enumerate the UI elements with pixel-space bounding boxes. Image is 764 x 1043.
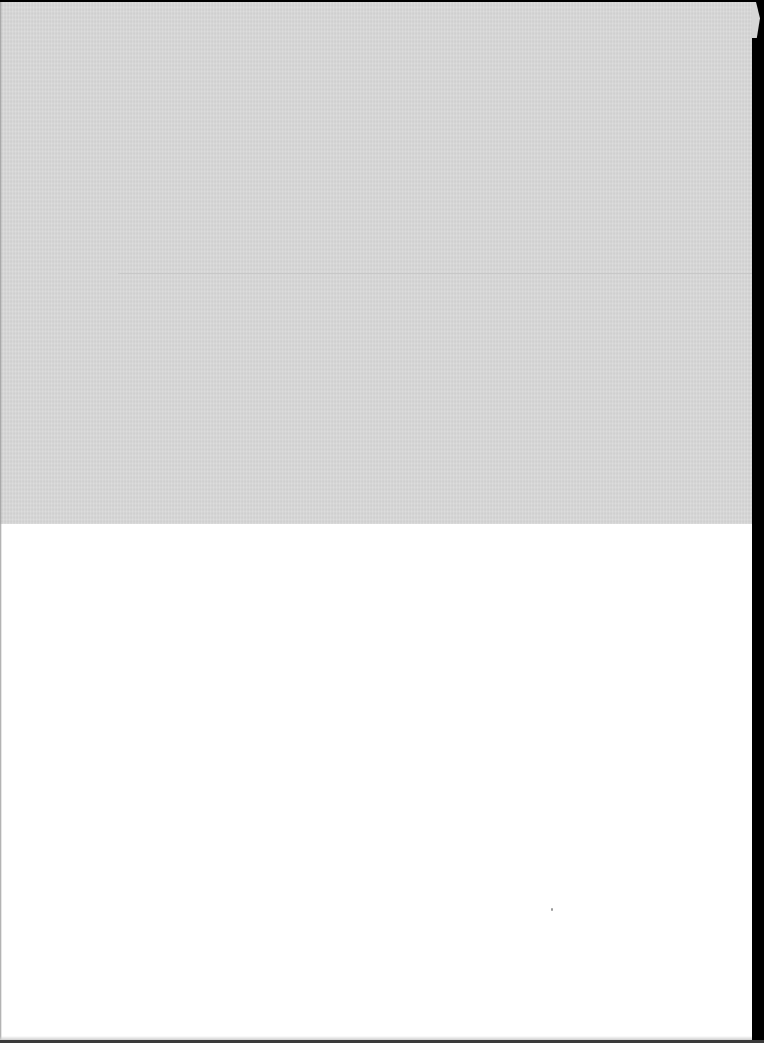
torn-corner-notch <box>752 2 760 38</box>
scan-speck <box>551 908 553 911</box>
paper-page <box>0 2 752 1040</box>
faint-horizontal-rule <box>118 273 752 274</box>
page-left-edge <box>0 2 2 1040</box>
scanned-document <box>0 0 764 1043</box>
shaded-upper-band <box>0 2 752 524</box>
